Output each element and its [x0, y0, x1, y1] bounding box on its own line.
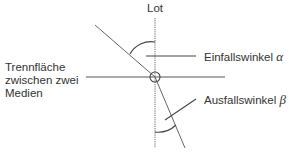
- interface-label: Trennfläche zwischen zwei Medien: [5, 61, 79, 100]
- alpha-symbol: α: [276, 49, 283, 64]
- normal-label: Lot: [147, 2, 163, 15]
- incident-ray: [95, 25, 155, 77]
- incidence-angle-arc: [130, 42, 155, 54]
- refracted-ray: [155, 77, 185, 148]
- refraction-leader: [165, 99, 196, 120]
- incidence-angle-label: Einfallswinkel α: [204, 50, 283, 64]
- refraction-angle-label: Ausfallswinkel β: [204, 93, 286, 107]
- beta-symbol: β: [279, 92, 285, 107]
- refraction-angle-arc: [155, 125, 176, 132]
